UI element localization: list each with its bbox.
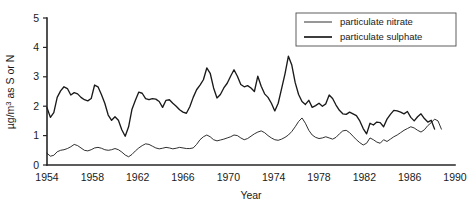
x-tick-label: 1974: [262, 171, 286, 183]
legend-label-particulate-nitrate: particulate nitrate: [340, 16, 413, 27]
line-chart: 012345 195419581962196619701974197819821…: [0, 0, 468, 208]
x-tick-label: 1982: [353, 171, 377, 183]
y-tick-label: 1: [33, 129, 39, 141]
y-tick-label: 0: [33, 159, 39, 171]
legend-label-particulate-sulphate: particulate sulphate: [340, 31, 422, 42]
x-tick-label: 1966: [171, 171, 195, 183]
x-tick-label: 1962: [126, 171, 150, 183]
x-axis-ticks: 1954195819621966197019741978198219861990: [35, 171, 467, 183]
x-tick-label: 1986: [398, 171, 422, 183]
chart-legend: particulate nitrateparticulate sulphate: [296, 13, 456, 46]
series-lines: [47, 56, 441, 157]
x-tick-label: 1958: [81, 171, 105, 183]
chart-figure: 012345 195419581962196619701974197819821…: [0, 0, 468, 208]
x-tick-label: 1978: [307, 171, 331, 183]
series-line-particulate-sulphate: [47, 56, 435, 136]
x-axis-title: Year: [240, 189, 262, 201]
series-line-particulate-nitrate: [47, 118, 441, 157]
y-tick-label: 2: [33, 100, 39, 112]
y-axis-title-suffix: as S or N: [4, 55, 16, 102]
y-tick-label: 3: [33, 70, 39, 82]
svg-text:µg/m3 as S or N: µg/m3 as S or N: [4, 55, 16, 129]
x-tick-label: 1970: [217, 171, 241, 183]
y-tick-label: 5: [33, 12, 39, 24]
x-tick-label: 1990: [443, 171, 467, 183]
x-tick-label: 1954: [35, 171, 59, 183]
y-tick-label: 4: [33, 41, 39, 53]
y-axis-title-prefix: µg/m: [4, 105, 16, 129]
y-axis-ticks: 012345: [33, 12, 47, 171]
y-axis-title: µg/m3 as S or N: [4, 55, 16, 129]
